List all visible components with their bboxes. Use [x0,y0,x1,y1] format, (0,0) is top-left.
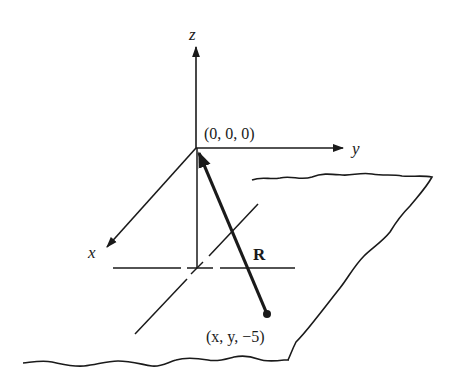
point-label: (x, y, −5) [206,328,265,346]
y-axis-label: y [350,139,360,158]
z-axis-label: z [188,25,196,44]
diagram-canvas: z y x (0, 0, 0) R (x, y, −5) [0,0,460,390]
point-dot [263,310,271,318]
vector-r-label: R [253,245,266,264]
vector-r [199,153,267,314]
x-axis [107,148,196,247]
x-axis-label: x [87,243,96,262]
origin-label: (0, 0, 0) [204,125,255,143]
